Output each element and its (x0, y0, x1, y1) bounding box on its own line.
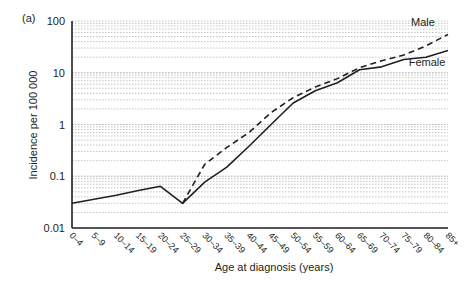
y-tick-label: 0.01 (44, 222, 65, 234)
data-series (72, 34, 448, 203)
x-tick-label: 85+ (444, 230, 462, 248)
female-series-label: Female (409, 56, 446, 68)
x-tick-label: 55–59 (311, 230, 336, 255)
x-tick-label: 40–44 (245, 230, 270, 255)
x-tick-label: 50–54 (289, 230, 314, 255)
x-tick-label: 15–19 (134, 230, 159, 255)
y-tick-label: 0.1 (50, 170, 65, 182)
x-tick-label: 75–79 (399, 230, 424, 255)
y-axis-label: Incidence per 100 000 (27, 71, 39, 180)
x-tick-label: 80–84 (421, 230, 446, 255)
y-tick-label: 1 (59, 119, 65, 131)
y-tick-label: 100 (47, 15, 65, 27)
x-tick-label: 70–74 (377, 230, 402, 255)
x-tick-label: 0–4 (68, 230, 86, 248)
axes (72, 21, 448, 228)
x-tick-label: 65–69 (355, 230, 380, 255)
y-tick-label: 10 (53, 67, 65, 79)
x-tick-label: 35–39 (222, 230, 247, 255)
female-line (72, 50, 448, 203)
x-tick-label: 45–49 (267, 230, 292, 255)
x-tick-label: 5–9 (90, 230, 108, 248)
incidence-chart: 0.010.1110100 0–45–910–1415–1920–2425–29… (0, 0, 474, 281)
x-tick-label: 20–24 (156, 230, 181, 255)
gridlines (72, 21, 448, 228)
y-tick-labels: 0.010.1110100 (44, 15, 65, 234)
x-axis-label: Age at diagnosis (years) (215, 261, 334, 273)
x-tick-labels: 0–45–910–1415–1920–2425–2930–3435–3940–4… (68, 230, 462, 255)
x-tick-label: 10–14 (112, 230, 137, 255)
x-tick-label: 30–34 (200, 230, 225, 255)
male-series-label: Male (411, 16, 435, 28)
x-tick-label: 60–64 (333, 230, 358, 255)
x-tick-label: 25–29 (178, 230, 203, 255)
